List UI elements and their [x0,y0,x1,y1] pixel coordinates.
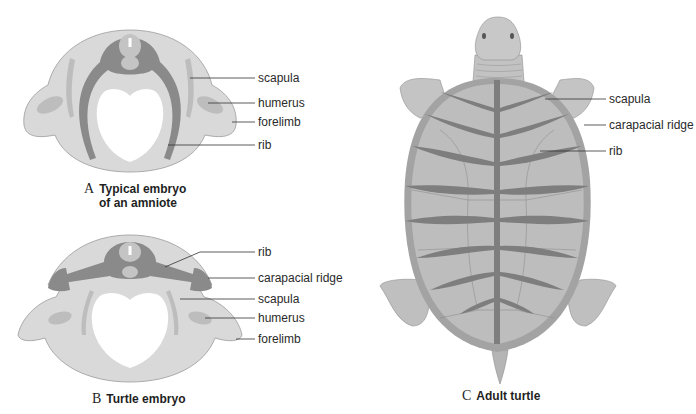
panel-c-head [475,17,520,60]
panel-b-label-forelimb: forelimb [258,332,301,346]
panel-c-eye-right [510,33,514,39]
panel-b-caption: BTurtle embryo [92,392,185,406]
panel-b-embryo-section [18,235,255,382]
panel-a-letter: A [84,181,94,196]
panel-b-label-carapacial-ridge: carapacial ridge [258,271,343,285]
panel-c-tail [492,350,508,384]
panel-a-caption: ATypical embryo of an amniote [84,182,186,210]
panel-b-letter: B [92,391,101,406]
panel-b-neural-canal [129,246,132,255]
panel-c-label-rib: rib [609,144,622,158]
panel-a-label-rib: rib [258,138,271,152]
turtle-shell-evolution-figure: scapula humerus forelimb rib ATypical em… [0,0,696,414]
panel-b-notochord [122,266,138,278]
panel-b-label-scapula: scapula [258,292,299,306]
panel-a-label-scapula: scapula [258,71,299,85]
panel-c-label-scapula: scapula [609,92,650,106]
panel-a-caption-line2: of an amniote [84,196,186,210]
panel-a-caption-line1: Typical embryo [99,182,186,196]
panel-c-caption-line1: Adult turtle [476,389,540,403]
panel-c-eye-left [482,33,486,39]
panel-c-letter: C [462,388,471,403]
panel-a-notochord [121,56,139,70]
panel-b-label-humerus: humerus [258,311,305,325]
panel-c-label-carapacial-ridge: carapacial ridge [609,118,694,132]
panel-a-label-forelimb: forelimb [258,115,301,129]
panel-b-caption-line1: Turtle embryo [106,392,185,406]
panel-a-label-humerus: humerus [258,96,305,110]
panel-a-neural-canal [129,38,132,47]
panel-c-caption: CAdult turtle [462,389,540,403]
panel-b-label-rib: rib [258,245,271,259]
panel-c-vertebral-column [494,80,500,344]
panel-a-embryo-section [24,30,255,172]
panel-c-adult-turtle [380,17,616,384]
